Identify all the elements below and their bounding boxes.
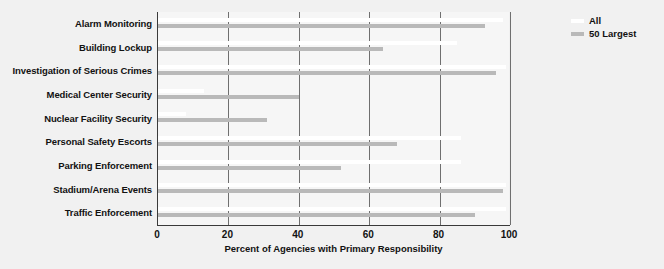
plot-area [157, 12, 509, 225]
bar-50-largest-building-lockup [158, 47, 383, 51]
gridline-x-100 [510, 12, 511, 225]
y-axis-label-medical-center-security: Medical Center Security [2, 89, 152, 100]
bar-all-medical-center-security [158, 89, 204, 93]
x-axis-title: Percent of Agencies with Primary Respons… [157, 243, 510, 254]
bar-50-largest-personal-safety-escorts [158, 142, 397, 146]
bar-group [158, 36, 509, 60]
bar-group [158, 83, 509, 107]
legend-item-all[interactable]: All [571, 14, 661, 27]
x-tick-40: 40 [292, 229, 303, 240]
y-axis-label-parking-enforcement: Parking Enforcement [2, 160, 152, 171]
bar-all-personal-safety-escorts [158, 136, 461, 140]
bar-chart-figure: Alarm MonitoringBuilding LockupInvestiga… [0, 0, 664, 269]
legend-swatch-icon [571, 32, 584, 36]
bar-all-investigation-of-serious-crimes [158, 65, 506, 69]
bar-50-largest-medical-center-security [158, 95, 299, 99]
bar-50-largest-parking-enforcement [158, 166, 341, 170]
y-axis-label-personal-safety-escorts: Personal Safety Escorts [2, 136, 152, 147]
bar-50-largest-nuclear-facility-security [158, 118, 267, 122]
bar-50-largest-traffic-enforcement [158, 213, 475, 217]
bar-group [158, 154, 509, 178]
x-tick-60: 60 [363, 229, 374, 240]
bar-all-alarm-monitoring [158, 18, 503, 22]
x-tick-100: 100 [501, 229, 518, 240]
bar-50-largest-investigation-of-serious-crimes [158, 71, 496, 75]
bar-group [158, 107, 509, 131]
y-axis-label-alarm-monitoring: Alarm Monitoring [2, 18, 152, 29]
bar-50-largest-alarm-monitoring [158, 24, 485, 28]
bar-all-parking-enforcement [158, 160, 461, 164]
y-axis-label-building-lockup: Building Lockup [2, 42, 152, 53]
y-axis-label-stadium-arena-events: Stadium/Arena Events [2, 184, 152, 195]
y-axis-label-nuclear-facility-security: Nuclear Facility Security [2, 113, 152, 124]
bar-all-building-lockup [158, 41, 457, 45]
y-axis-label-investigation-of-serious-crimes: Investigation of Serious Crimes [2, 65, 152, 76]
bar-all-nuclear-facility-security [158, 112, 186, 116]
x-tick-20: 20 [222, 229, 233, 240]
legend-label: 50 Largest [589, 28, 637, 39]
x-tick-80: 80 [433, 229, 444, 240]
bar-all-traffic-enforcement [158, 207, 506, 211]
bar-group [158, 12, 509, 36]
x-axis-line [157, 225, 510, 226]
bar-all-stadium-arena-events [158, 183, 506, 187]
bar-group [158, 178, 509, 202]
y-axis-category-labels: Alarm MonitoringBuilding LockupInvestiga… [0, 12, 152, 225]
bar-group [158, 130, 509, 154]
legend-item-50-largest[interactable]: 50 Largest [571, 27, 661, 40]
bar-group [158, 59, 509, 83]
y-axis-label-traffic-enforcement: Traffic Enforcement [2, 207, 152, 218]
x-tick-0: 0 [154, 229, 160, 240]
bar-group [158, 201, 509, 225]
bar-50-largest-stadium-arena-events [158, 189, 503, 193]
legend-label: All [589, 15, 601, 26]
legend-swatch-icon [571, 19, 584, 23]
chart-legend: All50 Largest [571, 14, 661, 40]
